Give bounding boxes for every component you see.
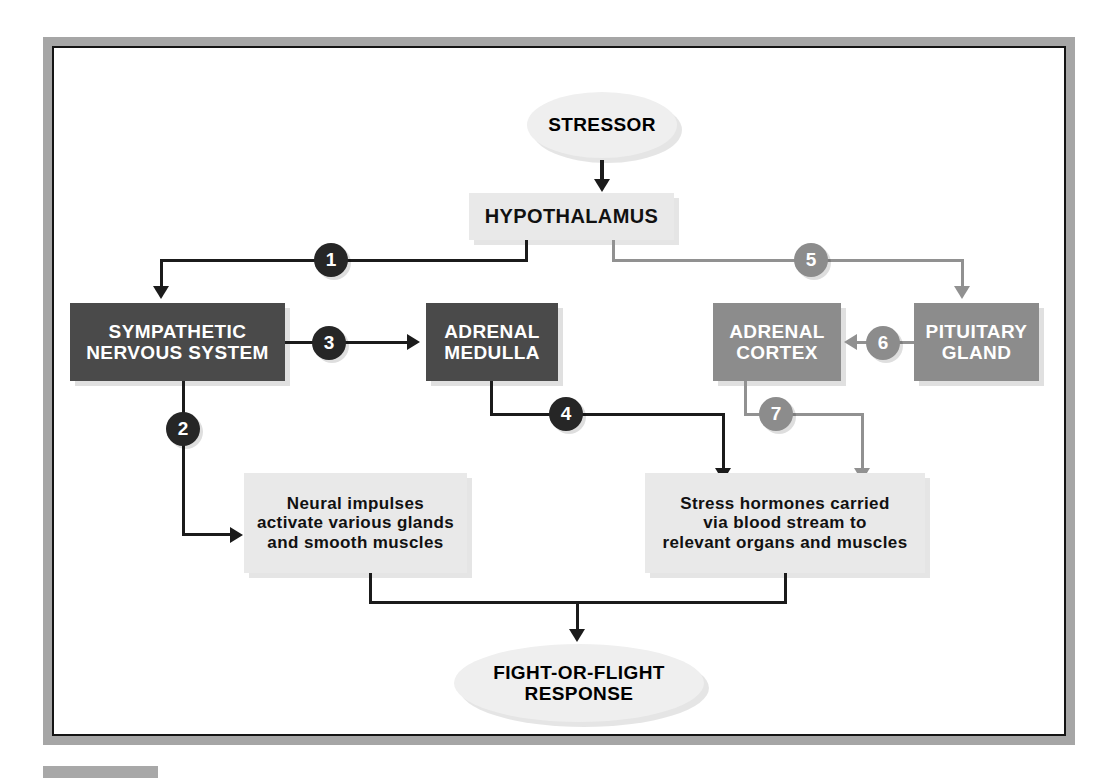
line-badge4-horizontal bbox=[490, 413, 725, 416]
node-adrenal-medulla-label-line1: ADRENAL bbox=[444, 321, 540, 342]
node-stress-hormones-line2: via blood stream to bbox=[703, 513, 866, 532]
node-sns-label-line2: NERVOUS SYSTEM bbox=[86, 342, 269, 363]
badge-5: 5 bbox=[794, 243, 828, 277]
node-stressor: STRESSOR bbox=[527, 92, 677, 158]
node-hypothalamus: HYPOTHALAMUS bbox=[469, 193, 674, 240]
node-neural-impulses-line3: and smooth muscles bbox=[267, 533, 443, 552]
badge-7-label: 7 bbox=[771, 403, 782, 425]
arrow-branch5-to-pituitary bbox=[954, 286, 970, 299]
node-stress-hormones-line3: relevant organs and muscles bbox=[662, 533, 907, 552]
line-stress-hormones-down bbox=[784, 573, 787, 603]
badge-4: 4 bbox=[549, 397, 583, 431]
line-adrenal-medulla-down bbox=[490, 381, 493, 415]
node-neural-impulses: Neural impulses activate various glands … bbox=[244, 473, 467, 573]
node-adrenal-cortex-label-line2: CORTEX bbox=[736, 342, 818, 363]
line-badge7-down bbox=[861, 413, 864, 473]
node-hypothalamus-label: HYPOTHALAMUS bbox=[485, 205, 659, 227]
line-hypothalamus-left-stub bbox=[525, 240, 528, 261]
line-sns-to-adrenal-medulla bbox=[285, 341, 417, 344]
node-adrenal-cortex-label-line1: ADRENAL bbox=[729, 321, 825, 342]
node-fight-or-flight-line1: FIGHT-OR-FLIGHT bbox=[493, 662, 665, 683]
frame-bottom-tab bbox=[43, 766, 158, 778]
node-neural-impulses-line2: activate various glands bbox=[257, 513, 454, 532]
arrow-merge-to-fight-or-flight bbox=[569, 629, 585, 642]
line-hypothalamus-right-stub bbox=[612, 240, 615, 261]
badge-1: 1 bbox=[314, 243, 348, 277]
badge-5-label: 5 bbox=[806, 249, 817, 271]
diagram-frame: STRESSOR HYPOTHALAMUS SYMPATHETIC NERV bbox=[43, 37, 1075, 745]
badge-7: 7 bbox=[759, 397, 793, 431]
node-pituitary-label-line1: PITUITARY bbox=[926, 321, 1028, 342]
arrow-stressor-to-hypothalamus bbox=[594, 179, 610, 192]
node-fight-or-flight-response: FIGHT-OR-FLIGHT RESPONSE bbox=[454, 644, 704, 722]
badge-2: 2 bbox=[166, 412, 200, 446]
line-adrenal-cortex-down bbox=[744, 381, 747, 415]
line-sns-down bbox=[182, 381, 185, 536]
badge-3-label: 3 bbox=[324, 332, 335, 354]
flowchart-canvas: STRESSOR HYPOTHALAMUS SYMPATHETIC NERV bbox=[54, 48, 1070, 740]
line-branch5-horizontal bbox=[612, 259, 964, 262]
arrow-pituitary-to-adrenal-cortex bbox=[844, 334, 857, 350]
badge-2-label: 2 bbox=[178, 418, 189, 440]
node-adrenal-medulla-label-line2: MEDULLA bbox=[444, 342, 540, 363]
badge-3: 3 bbox=[312, 326, 346, 360]
line-sns-to-neural-impulses bbox=[182, 533, 237, 536]
node-sns-label-line1: SYMPATHETIC bbox=[109, 321, 247, 342]
arrow-sns-to-adrenal-medulla bbox=[407, 334, 420, 350]
node-fight-or-flight-line2: RESPONSE bbox=[525, 683, 634, 704]
badge-1-label: 1 bbox=[326, 249, 337, 271]
line-badge4-down bbox=[722, 413, 725, 473]
node-pituitary-label-line2: GLAND bbox=[942, 342, 1012, 363]
diagram-frame-inner: STRESSOR HYPOTHALAMUS SYMPATHETIC NERV bbox=[52, 46, 1066, 736]
node-stress-hormones: Stress hormones carried via blood stream… bbox=[645, 473, 925, 573]
node-pituitary-gland: PITUITARY GLAND bbox=[914, 303, 1039, 381]
node-stressor-label: STRESSOR bbox=[548, 114, 656, 135]
node-sympathetic-nervous-system: SYMPATHETIC NERVOUS SYSTEM bbox=[70, 303, 285, 381]
node-neural-impulses-line1: Neural impulses bbox=[287, 494, 424, 513]
node-adrenal-cortex: ADRENAL CORTEX bbox=[713, 303, 841, 381]
badge-4-label: 4 bbox=[561, 403, 572, 425]
badge-6: 6 bbox=[866, 326, 900, 360]
arrow-branch1-to-sns bbox=[153, 286, 169, 299]
arrow-sns-to-neural-impulses bbox=[230, 527, 243, 543]
node-adrenal-medulla: ADRENAL MEDULLA bbox=[426, 303, 558, 381]
node-stress-hormones-line1: Stress hormones carried bbox=[680, 494, 890, 513]
line-neural-impulses-down bbox=[369, 573, 372, 603]
badge-6-label: 6 bbox=[878, 332, 889, 354]
